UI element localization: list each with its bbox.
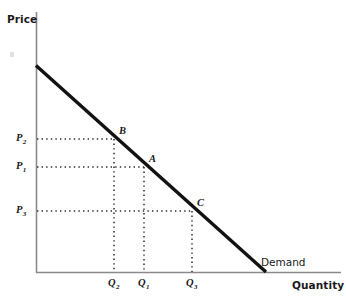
quantity-tick-q3-subscript: 3 [194,283,198,291]
point-label-a: A [149,154,156,165]
price-tick-p3-subscript: 3 [23,210,27,218]
price-tick-p2-subscript: 2 [23,138,27,146]
quantity-tick-q2-subscript: 2 [116,283,120,291]
price-tick-label-p3: P3 [16,205,26,216]
y-axis-title: Price [7,14,37,25]
price-tick-label-p2: P2 [16,133,26,144]
quantity-tick-label-q1: Q1 [138,278,149,289]
price-tick-p3-symbol: P [16,204,22,215]
point-label-c: C [197,198,204,209]
scan-artifact-speckle [10,52,14,57]
demand-curve-figure: Price Quantity Demand P2 P1 P3 Q2 Q1 Q3 … [0,0,346,300]
quantity-tick-q2-symbol: Q [108,277,116,288]
quantity-tick-label-q2: Q2 [108,278,119,289]
x-axis-title: Quantity [292,280,344,291]
price-tick-p1-symbol: P [16,160,22,171]
quantity-tick-q3-symbol: Q [186,277,194,288]
quantity-tick-q1-subscript: 1 [146,283,150,291]
price-tick-p2-symbol: P [16,132,22,143]
demand-curve-label: Demand [261,257,306,268]
price-tick-p1-subscript: 1 [23,166,27,174]
demand-curve-line [36,66,266,273]
quantity-tick-label-q3: Q3 [186,278,197,289]
diagram-canvas [0,0,346,300]
point-label-b: B [119,126,126,137]
quantity-tick-q1-symbol: Q [138,277,146,288]
price-tick-label-p1: P1 [16,161,26,172]
